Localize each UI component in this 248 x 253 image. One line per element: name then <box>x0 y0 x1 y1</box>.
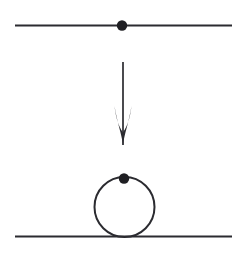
bottom-vertex-dot <box>119 173 129 183</box>
loop-circle <box>95 177 155 237</box>
top-vertex-dot <box>117 20 127 30</box>
top-propagator-group <box>15 20 232 30</box>
figure-canvas <box>0 0 248 253</box>
bottom-propagator-group <box>15 173 232 237</box>
downward-arrow-group <box>115 62 132 145</box>
feynman-diagram <box>0 0 248 253</box>
